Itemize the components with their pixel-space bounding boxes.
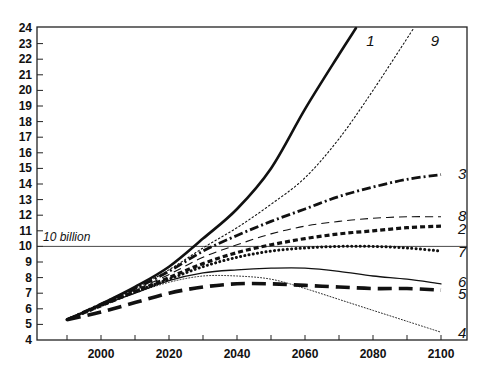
y-tick-label: 13 (19, 193, 33, 207)
y-tick-label: 12 (19, 208, 33, 222)
y-tick-label: 23 (19, 37, 33, 51)
y-tick-label: 7 (25, 286, 32, 300)
y-tick-label: 17 (19, 130, 33, 144)
series-label-7: 7 (458, 243, 467, 260)
x-axis: 200020202040206020802100 (67, 335, 455, 361)
series-lines (67, 28, 441, 332)
y-tick-label: 22 (19, 52, 33, 66)
y-tick-label: 19 (19, 99, 33, 113)
y-tick-label: 8 (25, 271, 32, 285)
y-axis: 456789101112131415161718192021222324 (19, 21, 43, 347)
series-label-1: 1 (366, 32, 374, 49)
series-label-5: 5 (458, 285, 467, 302)
x-tick-label: 2080 (360, 347, 387, 361)
series-label-9: 9 (431, 32, 440, 49)
y-tick-label: 24 (19, 21, 33, 35)
x-tick-label: 2020 (156, 347, 183, 361)
x-tick-label: 2040 (224, 347, 251, 361)
y-tick-label: 16 (19, 146, 33, 160)
x-tick-label: 2060 (292, 347, 319, 361)
series-label-4: 4 (458, 324, 466, 341)
y-tick-label: 6 (25, 302, 32, 316)
y-tick-label: 14 (19, 177, 33, 191)
y-tick-label: 10 (19, 239, 33, 253)
y-tick-label: 18 (19, 115, 33, 129)
reference-line-10-billion: 10 billion (37, 230, 467, 246)
x-tick-label: 2100 (428, 347, 455, 361)
population-projection-chart: 456789101112131415161718192021222324 200… (0, 0, 494, 375)
series-label-3: 3 (458, 165, 467, 182)
series-labels: 193827654 (366, 32, 467, 341)
plot-frame (37, 27, 467, 340)
y-tick-label: 9 (25, 255, 32, 269)
y-tick-label: 21 (19, 68, 33, 82)
series-label-2: 2 (457, 220, 467, 237)
y-tick-label: 15 (19, 161, 33, 175)
series-line-2 (67, 226, 441, 320)
y-tick-label: 4 (25, 333, 32, 347)
series-line-1 (67, 28, 356, 320)
x-tick-label: 2000 (88, 347, 115, 361)
ten-billion-label: 10 billion (43, 230, 91, 244)
y-tick-label: 20 (19, 83, 33, 97)
y-tick-label: 11 (19, 224, 32, 238)
y-tick-label: 5 (25, 317, 32, 331)
